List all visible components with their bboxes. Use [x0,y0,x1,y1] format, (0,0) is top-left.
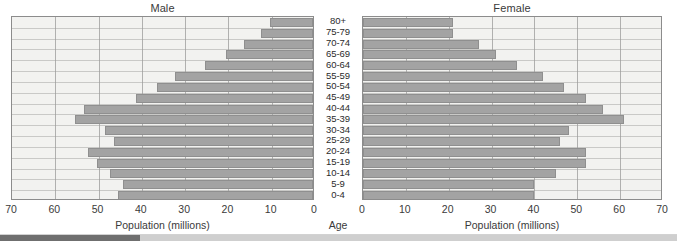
bar-female-15-19 [363,159,586,168]
age-group-label: 25-29 [314,134,362,145]
age-group-label: 5-9 [314,178,362,189]
age-group-label: 65-69 [314,48,362,59]
bar-female-60-64 [363,61,517,70]
bar-female-45-49 [363,94,586,103]
age-axis-title: Age [314,219,362,231]
x-axis-tick-label: 70 [649,203,675,215]
x-axis-tick-label: 30 [478,203,504,215]
age-group-label: 15-19 [314,156,362,167]
age-group-label: 50-54 [314,80,362,91]
bar-female-70-74 [363,40,479,49]
bar-female-20-24 [363,148,586,157]
bar-male-60-64 [205,61,313,70]
bar-female-50-54 [363,83,564,92]
bar-male-20-24 [88,148,313,157]
gridline [620,17,621,199]
x-axis-tick-label: 10 [392,203,418,215]
bar-male-45-49 [136,94,313,103]
x-axis-tick-label: 20 [435,203,461,215]
age-group-label: 70-74 [314,37,362,48]
bar-female-55-59 [363,72,543,81]
bar-female-25-29 [363,137,560,146]
age-group-label: 20-24 [314,145,362,156]
bar-male-5-9 [123,180,313,189]
male-plot-area [11,16,314,200]
x-axis-tick-label: 50 [563,203,589,215]
bar-male-10-14 [110,169,313,178]
age-group-label: 80+ [314,15,362,26]
bar-female-65-69 [363,50,496,59]
bar-male-40-44 [84,105,313,114]
age-group-label: 40-44 [314,102,362,113]
bar-male-30-34 [105,126,313,135]
horizontal-scrollbar[interactable] [0,234,677,241]
bar-female-10-14 [363,169,556,178]
x-axis-tick-label: 10 [258,203,284,215]
female-x-axis-label: Population (millions) [362,219,662,231]
x-axis-tick-label: 50 [85,203,111,215]
bar-male-35-39 [75,115,313,124]
bar-female-30-34 [363,126,569,135]
population-pyramid-figure: Male Female 80+75-7970-7465-6960-6455-59… [0,0,677,241]
bar-female-40-44 [363,105,603,114]
bar-female-0-4 [363,191,534,200]
age-group-label: 35-39 [314,113,362,124]
x-axis-tick-label: 30 [171,203,197,215]
x-axis-tick-label: 40 [520,203,546,215]
scrollbar-thumb[interactable] [0,235,140,241]
bar-male-15-19 [97,159,313,168]
x-axis-tick-label: 40 [128,203,154,215]
scrollbar-track[interactable] [140,235,677,241]
bar-female-75-79 [363,29,453,38]
bar-male-0-4 [118,191,313,200]
age-group-label: 55-59 [314,70,362,81]
bar-female-35-39 [363,115,624,124]
bar-male-65-69 [226,50,313,59]
female-panel-title: Female [362,2,662,14]
age-group-label: 60-64 [314,59,362,70]
age-group-label: 45-49 [314,91,362,102]
bar-male-25-29 [114,137,313,146]
bar-female-80+ [363,18,453,27]
x-axis-tick-label: 0 [349,203,375,215]
male-x-axis-label: Population (millions) [11,219,314,231]
male-panel-title: Male [10,2,315,14]
bar-male-70-74 [244,40,313,49]
x-axis-tick-label: 60 [41,203,67,215]
female-plot-area [362,16,662,200]
age-group-label: 0-4 [314,189,362,200]
bar-male-55-59 [175,72,314,81]
x-axis-tick-label: 20 [214,203,240,215]
age-group-label: 75-79 [314,26,362,37]
bar-male-80+ [270,18,313,27]
gridline [55,17,56,199]
bar-male-50-54 [157,83,313,92]
age-category-axis: 80+75-7970-7465-6960-6455-5950-5445-4940… [314,16,362,200]
x-axis-tick-label: 70 [0,203,24,215]
age-group-label: 10-14 [314,167,362,178]
age-group-label: 30-34 [314,124,362,135]
bar-male-75-79 [261,29,313,38]
x-axis-tick-label: 0 [301,203,327,215]
x-axis-tick-label: 60 [606,203,632,215]
bar-female-5-9 [363,180,534,189]
